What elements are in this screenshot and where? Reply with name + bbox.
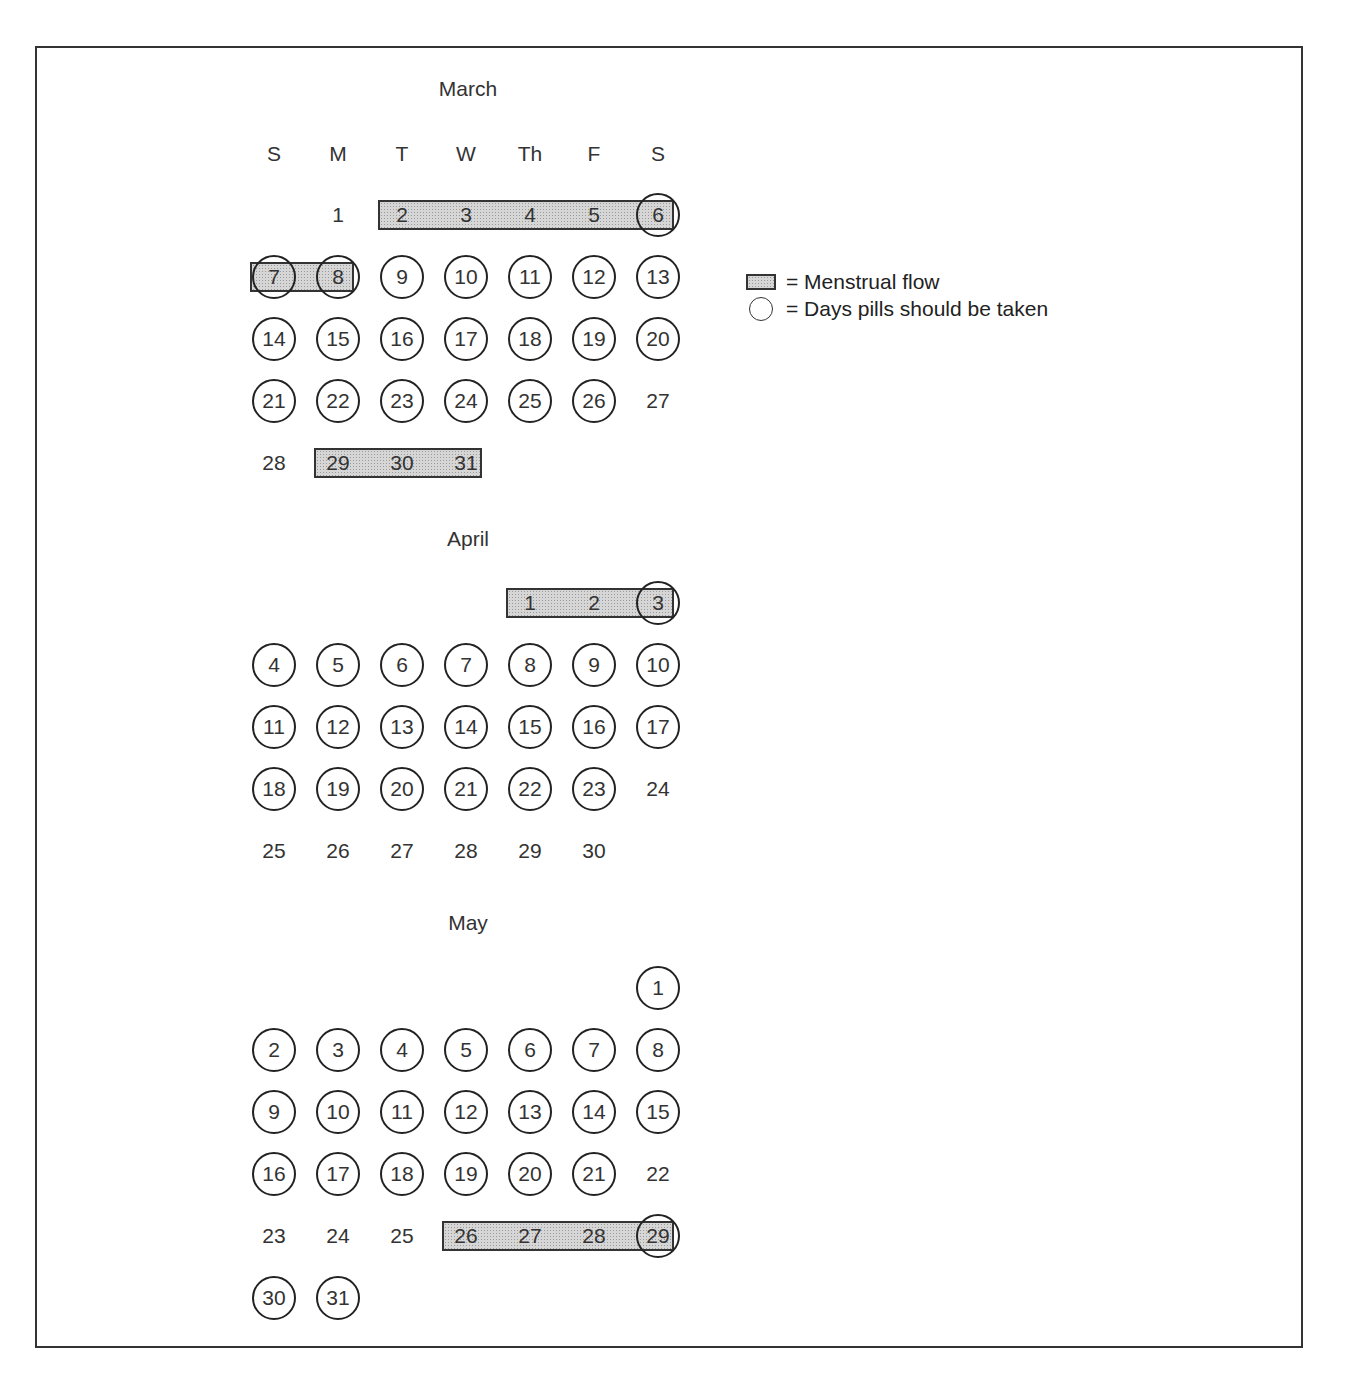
pill-day: 16 [252,1152,296,1196]
pill-circle-icon [749,297,773,321]
pill-day: 8 [508,643,552,687]
day: 31 [444,441,488,485]
pill-day: 26 [572,379,616,423]
weekday-header: M [329,142,347,166]
pill-day: 20 [380,767,424,811]
month-title: May [448,911,488,935]
pill-day: 8 [636,1028,680,1072]
pill-day: 21 [444,767,488,811]
day: 26 [444,1214,488,1258]
day: 23 [252,1214,296,1258]
day: 27 [508,1214,552,1258]
pill-day: 5 [316,643,360,687]
day: 28 [444,829,488,873]
pill-day: 10 [444,255,488,299]
legend: = Menstrual flow = Days pills should be … [746,268,1048,322]
pill-day: 15 [636,1090,680,1134]
pill-day: 20 [508,1152,552,1196]
day: 1 [316,193,360,237]
pill-day: 14 [252,317,296,361]
day: 30 [572,829,616,873]
day: 28 [252,441,296,485]
day: 24 [316,1214,360,1258]
pill-day: 20 [636,317,680,361]
pill-day: 13 [508,1090,552,1134]
pill-day: 17 [444,317,488,361]
pill-day: 11 [508,255,552,299]
day: 1 [508,581,552,625]
day: 27 [636,379,680,423]
day: 22 [636,1152,680,1196]
legend-item-flow: = Menstrual flow [746,268,1048,295]
pill-day: 21 [252,379,296,423]
pill-day: 30 [252,1276,296,1320]
pill-day: 16 [572,705,616,749]
pill-day: 4 [252,643,296,687]
pill-day: 10 [316,1090,360,1134]
pill-day: 6 [636,193,680,237]
pill-day: 23 [380,379,424,423]
pill-day: 11 [252,705,296,749]
pill-day: 19 [444,1152,488,1196]
legend-pill-label: = Days pills should be taken [786,297,1048,321]
pill-day: 7 [444,643,488,687]
legend-flow-label: = Menstrual flow [786,270,939,294]
pill-day: 14 [444,705,488,749]
day: 2 [380,193,424,237]
day: 4 [508,193,552,237]
pill-day: 11 [380,1090,424,1134]
weekday-header: S [267,142,281,166]
legend-item-pill: = Days pills should be taken [746,295,1048,322]
pill-day: 25 [508,379,552,423]
pill-day: 12 [572,255,616,299]
pill-day: 18 [252,767,296,811]
day: 25 [380,1214,424,1258]
pill-day: 6 [508,1028,552,1072]
weekday-header: W [456,142,476,166]
pill-day: 14 [572,1090,616,1134]
pill-day: 2 [252,1028,296,1072]
pill-day: 23 [572,767,616,811]
pill-day: 29 [636,1214,680,1258]
pill-day: 16 [380,317,424,361]
pill-day: 9 [252,1090,296,1134]
pill-day: 1 [636,966,680,1010]
day: 30 [380,441,424,485]
pill-day: 7 [252,255,296,299]
pill-day: 22 [508,767,552,811]
month-title: April [447,527,489,551]
pill-day: 6 [380,643,424,687]
pill-day: 19 [316,767,360,811]
day: 28 [572,1214,616,1258]
pill-day: 9 [572,643,616,687]
day: 5 [572,193,616,237]
pill-day: 18 [380,1152,424,1196]
pill-day: 3 [636,581,680,625]
pill-day: 19 [572,317,616,361]
pill-day: 24 [444,379,488,423]
weekday-header: S [651,142,665,166]
pill-day: 3 [316,1028,360,1072]
day: 2 [572,581,616,625]
weekday-header: Th [518,142,543,166]
weekday-header: T [396,142,409,166]
pill-day: 8 [316,255,360,299]
pill-day: 31 [316,1276,360,1320]
month-title: March [439,77,497,101]
pill-day: 13 [636,255,680,299]
menstrual-flow-swatch-icon [746,274,776,290]
pill-day: 4 [380,1028,424,1072]
day: 26 [316,829,360,873]
pill-day: 5 [444,1028,488,1072]
pill-day: 22 [316,379,360,423]
weekday-header: F [588,142,601,166]
pill-day: 15 [316,317,360,361]
pill-day: 7 [572,1028,616,1072]
day: 27 [380,829,424,873]
pill-day: 13 [380,705,424,749]
pill-day: 17 [636,705,680,749]
day: 29 [508,829,552,873]
pill-day: 9 [380,255,424,299]
day: 25 [252,829,296,873]
day: 29 [316,441,360,485]
